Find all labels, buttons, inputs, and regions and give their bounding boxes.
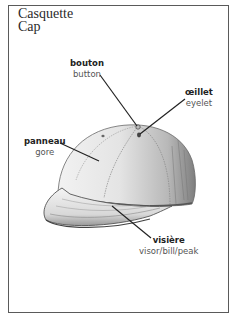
label-gore-french: panneau	[24, 136, 65, 147]
label-button: bouton button	[70, 58, 104, 80]
label-gore: panneau gore	[24, 136, 65, 158]
label-button-french: bouton	[70, 58, 104, 69]
label-visor: visière visor/bill/peak	[139, 235, 198, 257]
leader-eyelet	[140, 99, 185, 134]
label-gore-english: gore	[24, 147, 65, 158]
label-eyelet-french: œillet	[185, 87, 213, 98]
cap-crown	[58, 125, 195, 206]
label-eyelet: œillet eyelet	[185, 87, 213, 109]
cap-illustration	[0, 0, 233, 318]
label-visor-english: visor/bill/peak	[139, 246, 198, 257]
label-visor-french: visière	[139, 235, 198, 246]
cap-eyelet-left	[101, 135, 104, 137]
label-eyelet-english: eyelet	[185, 98, 213, 109]
label-button-english: button	[70, 69, 104, 80]
leader-button	[100, 75, 137, 126]
